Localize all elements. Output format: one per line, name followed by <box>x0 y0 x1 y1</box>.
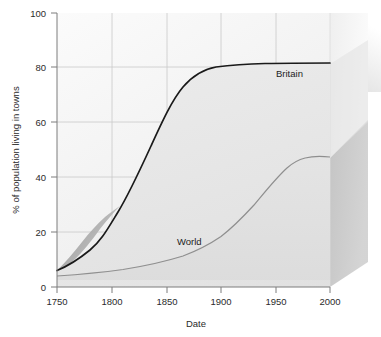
x-tick-label: 1950 <box>265 296 286 307</box>
world-series-label: World <box>177 236 202 247</box>
y-axis-ticks <box>51 13 57 287</box>
y-tick-label: 60 <box>35 117 46 128</box>
x-axis-tick-labels: 1750 1800 1850 1900 1950 2000 <box>46 296 340 307</box>
x-tick-label: 1800 <box>101 296 122 307</box>
y-tick-label: 100 <box>30 8 46 19</box>
x-tick-label: 2000 <box>319 296 340 307</box>
y-tick-label: 40 <box>35 172 46 183</box>
chart-container: 100 80 60 40 20 0 1750 1800 1850 1900 19… <box>0 0 381 337</box>
x-tick-label: 1850 <box>156 296 177 307</box>
y-axis-title: % of population living in towns <box>10 86 21 214</box>
x-tick-label: 1750 <box>46 296 67 307</box>
x-axis-title: Date <box>186 318 206 329</box>
side-panel-3d <box>330 13 368 287</box>
y-axis-tick-labels: 100 80 60 40 20 0 <box>30 8 46 293</box>
x-axis-ticks <box>57 287 330 293</box>
y-tick-label: 20 <box>35 227 46 238</box>
y-tick-label: 0 <box>41 282 46 293</box>
baseline-strip <box>57 280 330 287</box>
britain-series-label: Britain <box>276 68 303 79</box>
x-tick-label: 1900 <box>210 296 231 307</box>
urbanisation-area-chart: 100 80 60 40 20 0 1750 1800 1850 1900 19… <box>0 0 381 337</box>
y-tick-label: 80 <box>35 62 46 73</box>
